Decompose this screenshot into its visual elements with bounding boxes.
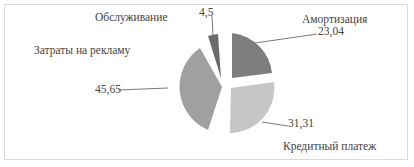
leader-amortization xyxy=(255,34,317,43)
leader-credit xyxy=(262,122,288,126)
label-amortization-value: 23,04 xyxy=(318,26,344,38)
leader-advertising xyxy=(118,88,168,90)
label-amortization-name: Амортизация xyxy=(302,14,367,26)
label-credit-name: Кредитный платеж xyxy=(283,141,376,153)
label-advertising-value: 45,65 xyxy=(95,84,121,96)
label-service-name: Обслуживание xyxy=(95,12,168,24)
leader-service xyxy=(212,16,213,35)
label-credit-value: 31,31 xyxy=(288,118,314,130)
slice-amortization xyxy=(232,33,272,78)
label-advertising-name: Затраты на рекламу xyxy=(34,45,130,57)
slice-credit-payment xyxy=(230,82,274,133)
label-service-value: 4,5 xyxy=(199,7,213,19)
